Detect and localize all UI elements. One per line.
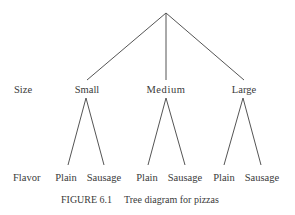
flavor-edges xyxy=(68,98,261,165)
caption-text: Tree diagram for pizzas xyxy=(124,194,219,205)
edge-root-large xyxy=(166,13,244,80)
edge-small-sausage xyxy=(86,98,104,165)
leaf-large-plain: Plain xyxy=(213,172,235,183)
size-nodes: Small Medium Large xyxy=(75,84,257,95)
figure-caption: FIGURE 6.1 Tree diagram for pizzas xyxy=(61,194,219,205)
leaf-medium-plain: Plain xyxy=(136,172,158,183)
leaf-large-sausage: Sausage xyxy=(245,172,280,183)
size-edges xyxy=(87,13,244,80)
tree-diagram-figure: Size Small Medium Large Flavor Plain Sau… xyxy=(0,0,295,215)
edge-root-small xyxy=(87,13,166,80)
tree-diagram: Size Small Medium Large Flavor Plain Sau… xyxy=(0,0,295,215)
edge-large-plain xyxy=(224,98,243,165)
edge-small-plain xyxy=(68,98,86,165)
level-label-size: Size xyxy=(14,84,32,95)
node-small: Small xyxy=(75,84,100,95)
flavor-nodes: Plain Sausage Plain Sausage Plain Sausag… xyxy=(55,172,279,183)
edge-medium-plain xyxy=(148,98,166,165)
edge-medium-sausage xyxy=(166,98,185,165)
node-large: Large xyxy=(232,84,257,95)
leaf-small-plain: Plain xyxy=(55,172,77,183)
node-medium: Medium xyxy=(146,84,185,95)
level-label-flavor: Flavor xyxy=(13,172,41,183)
leaf-small-sausage: Sausage xyxy=(87,172,122,183)
leaf-medium-sausage: Sausage xyxy=(168,172,203,183)
edge-large-sausage xyxy=(243,98,261,165)
caption-number: FIGURE 6.1 xyxy=(61,194,112,205)
